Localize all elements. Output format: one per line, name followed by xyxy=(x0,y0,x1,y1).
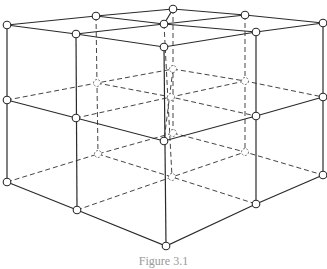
lattice-node-hidden xyxy=(242,78,249,85)
lattice-node xyxy=(319,93,327,101)
lattice-node xyxy=(3,21,11,29)
lattice-node xyxy=(72,114,80,122)
lattice-node xyxy=(160,137,168,145)
lattice-node xyxy=(160,20,168,28)
lattice-node xyxy=(252,28,260,36)
lattice-node xyxy=(252,112,260,120)
lattice-node-hidden xyxy=(242,149,249,156)
lattice-node-hidden xyxy=(170,130,177,137)
lattice-node xyxy=(72,30,80,38)
lattice-node-hidden xyxy=(95,151,102,158)
lattice-node-hidden xyxy=(170,66,177,73)
lattice-node xyxy=(319,171,327,179)
lattice-node-hidden xyxy=(94,80,101,87)
lattice-node xyxy=(92,12,100,20)
lattice-node xyxy=(252,200,260,208)
lattice-node xyxy=(319,19,327,27)
lattice-node-hidden xyxy=(168,94,175,101)
lattice-node xyxy=(241,11,249,19)
lattice-node-hidden xyxy=(169,174,176,181)
lattice-node xyxy=(162,242,170,250)
lattice-node xyxy=(3,96,11,104)
lattice-node xyxy=(160,43,168,51)
lattice-node xyxy=(73,206,81,214)
lattice-node xyxy=(3,178,11,186)
lattice-node xyxy=(169,5,177,13)
figure-caption: Figure 3.1 xyxy=(0,254,327,269)
